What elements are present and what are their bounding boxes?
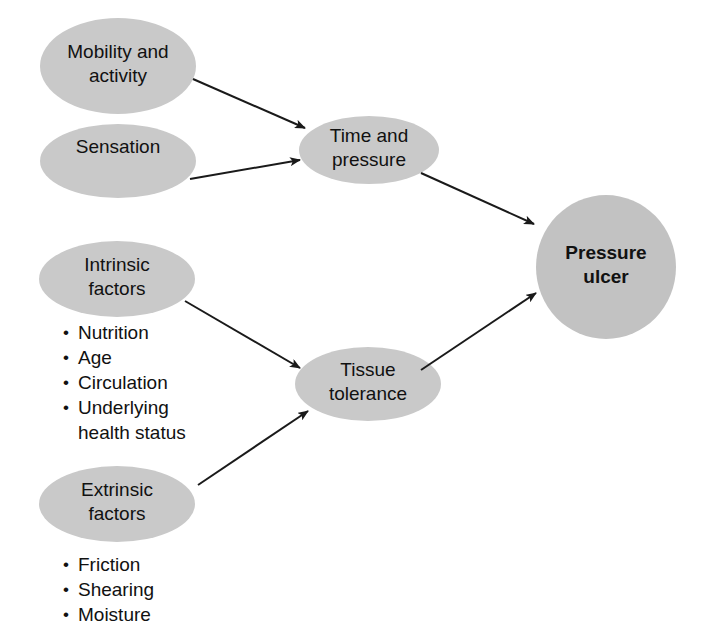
bullet-list-intrinsic-factors-bullets: NutritionAgeCirculationUnderlying health… <box>63 320 186 445</box>
nodes-layer <box>39 18 676 542</box>
node-ellipse-intrinsic-factors[interactable] <box>39 241 195 317</box>
bullet-item: Moisture <box>63 602 154 627</box>
node-ellipse-mobility-activity[interactable] <box>40 18 196 114</box>
bullet-item: Shearing <box>63 577 154 602</box>
pressure-ulcer-diagram: Mobility and activitySensationTime and p… <box>0 0 710 635</box>
bullet-item: Underlying health status <box>63 395 186 445</box>
diagram-canvas <box>0 0 710 635</box>
node-ellipse-pressure-ulcer[interactable] <box>536 195 676 339</box>
node-ellipse-tissue-tolerance[interactable] <box>295 347 441 421</box>
edge-arrow-mobility-to-time <box>193 79 305 128</box>
bullet-item: Friction <box>63 552 154 577</box>
bullet-list-extrinsic-factors-bullets: FrictionShearingMoisture <box>63 552 154 627</box>
edge-arrow-intrinsic-to-tissue <box>185 301 300 368</box>
bullet-item: Age <box>63 345 186 370</box>
node-ellipse-sensation[interactable] <box>40 124 196 198</box>
edge-arrow-extrinsic-to-tissue <box>198 411 308 485</box>
node-ellipse-time-and-pressure[interactable] <box>299 116 439 184</box>
node-ellipse-extrinsic-factors[interactable] <box>39 466 195 542</box>
bullet-item: Nutrition <box>63 320 186 345</box>
edge-arrow-time-to-ulcer <box>421 173 534 224</box>
edge-arrow-tissue-to-ulcer <box>421 293 536 370</box>
bullet-item: Circulation <box>63 370 186 395</box>
edge-arrow-sensation-to-time <box>190 160 300 179</box>
